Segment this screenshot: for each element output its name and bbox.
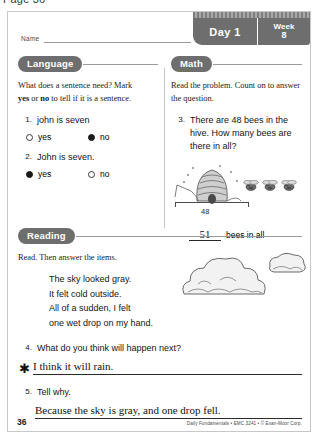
beehive-icon <box>171 157 302 207</box>
radio-bubble-unfilled[interactable] <box>26 134 33 141</box>
language-header-rule <box>83 64 158 65</box>
footer: 36 Daily Fundamentals • EMC 3241 • © Eva… <box>8 409 312 431</box>
language-title: Language <box>18 56 82 72</box>
language-item-1-choice-yes[interactable]: yes <box>26 132 88 142</box>
hive-count-label: 48 <box>201 207 209 216</box>
language-instructions: What does a sentence need? Mark yes or n… <box>18 79 158 105</box>
language-item-2-choice-no[interactable]: no <box>88 169 150 179</box>
language-section: Language What does a sentence need? Mark… <box>18 56 158 179</box>
language-item-1-choices: yes no <box>18 132 158 142</box>
language-item-2-choices: yes no <box>18 169 158 179</box>
language-item-2-number: 2. <box>18 151 32 164</box>
language-header: Language <box>18 56 158 72</box>
name-row: Name <box>21 33 191 43</box>
reading-header: Reading <box>18 228 302 244</box>
language-instructions-mid: or <box>29 94 40 103</box>
language-item-2-choice-yes[interactable]: yes <box>26 169 88 179</box>
tab-day: Day 1 <box>193 18 257 45</box>
reading-item-4-question: What do you think will happen next? <box>32 342 181 355</box>
reading-title: Reading <box>18 228 75 244</box>
tab-week: Week 8 <box>258 18 310 45</box>
math-item-3: 3. There are 48 bees in the hive. How ma… <box>171 114 302 153</box>
language-item-2: 2. John is seven. <box>18 151 158 164</box>
reading-section: Reading Read. Then answer the items. The… <box>8 228 312 419</box>
reading-header-rule <box>76 236 302 237</box>
math-item-3-text: There are 48 bees in the hive. How many … <box>185 114 302 153</box>
day-week-tabs: Day 1 Week 8 <box>193 12 310 45</box>
columns-container: Language What does a sentence need? Mark… <box>8 56 312 228</box>
reading-item-4-answer[interactable]: I think it will rain. <box>33 360 302 375</box>
name-label: Name <box>21 35 40 43</box>
math-item-3-number: 3. <box>171 114 185 153</box>
column-divider <box>164 68 165 228</box>
beehive-illustration: 48 <box>171 157 302 215</box>
clouds-icon <box>178 250 310 312</box>
radio-bubble-filled[interactable] <box>88 134 95 141</box>
math-header: Math <box>171 56 302 72</box>
tab-day-label: Day 1 <box>209 26 240 38</box>
language-instructions-tail: to tell if it is a sentence. <box>49 94 131 103</box>
language-item-1-choice-no[interactable]: no <box>88 132 150 142</box>
language-item-2-choice-yes-label: yes <box>38 169 51 179</box>
page-caption: Page 36 <box>3 0 45 5</box>
reading-item-4-number: 4. <box>18 342 32 355</box>
language-item-1-choice-no-label: no <box>100 132 109 142</box>
math-section: Math Read the problem. Count on to answe… <box>171 56 302 241</box>
worksheet-sheet: Day 1 Week 8 Name Language What does a s… <box>7 11 311 432</box>
name-input-line[interactable] <box>44 33 191 43</box>
language-item-1-choice-yes-label: yes <box>38 132 51 142</box>
reading-item-5: 5. Tell why. <box>18 386 302 399</box>
footer-credit: Daily Fundamentals • EMC 3241 • © Evan-M… <box>187 421 302 426</box>
reading-item-4: 4. What do you think will happen next? <box>18 342 302 355</box>
bee-group <box>244 181 297 191</box>
language-instructions-line1: What does a sentence need? Mark <box>18 81 132 90</box>
radio-bubble-unfilled[interactable] <box>88 171 95 178</box>
reading-item-5-number: 5. <box>18 386 32 399</box>
asterisk-marker-icon: ✱ <box>18 362 33 375</box>
math-title: Math <box>171 56 212 72</box>
language-item-2-choice-no-label: no <box>100 169 109 179</box>
language-instructions-yes: yes <box>18 94 29 103</box>
math-instructions: Read the problem. Count on to answer the… <box>171 79 302 105</box>
passage-line-4: one wet drop on my hand. <box>49 316 302 331</box>
language-item-1-text: john is seven <box>32 114 90 127</box>
language-item-2-text: John is seven. <box>32 151 95 164</box>
language-item-1: 1. john is seven <box>18 114 158 127</box>
reading-item-5-question: Tell why. <box>32 386 71 399</box>
math-header-rule <box>213 64 302 65</box>
hive-count-bracket <box>175 202 249 207</box>
footer-page-number: 36 <box>17 417 26 427</box>
tab-week-number: 8 <box>281 31 286 40</box>
reading-item-4-answer-row: ✱ I think it will rain. <box>18 360 302 375</box>
language-item-1-number: 1. <box>18 114 32 127</box>
radio-bubble-filled[interactable] <box>26 171 33 178</box>
language-instructions-no: no <box>40 94 49 103</box>
